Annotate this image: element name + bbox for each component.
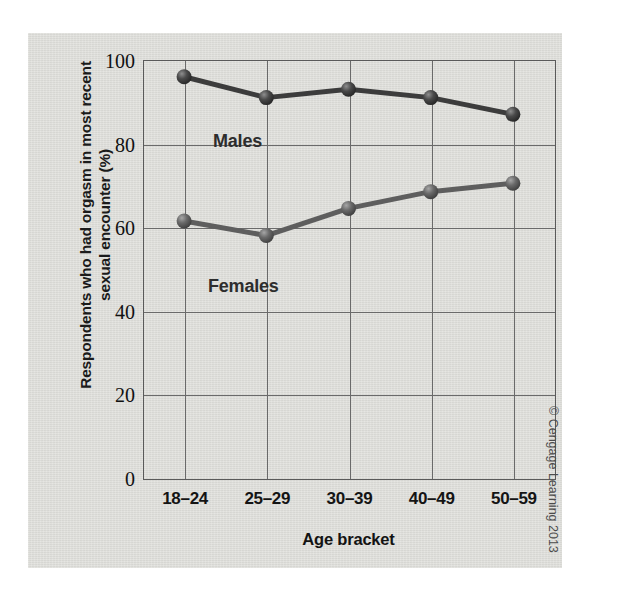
- y-tick-label: 80: [115, 133, 135, 156]
- y-axis-title-line2: sexual encounter (%): [95, 15, 114, 435]
- x-tick-label: 25–29: [244, 489, 290, 509]
- y-tick-label: 40: [115, 300, 135, 323]
- figure-panel: Respondents who had orgasm in most recen…: [28, 33, 562, 568]
- y-tick-label: 0: [125, 468, 135, 491]
- series-label-males: Males: [213, 131, 262, 152]
- copyright-notice: © Cengage Learning 2013: [546, 406, 560, 592]
- y-tick-label: 20: [115, 384, 135, 407]
- series-label-females: Females: [208, 276, 279, 297]
- y-axis-title: Respondents who had orgasm in most recen…: [76, 15, 114, 435]
- y-axis-title-line1: Respondents who had orgasm in most recen…: [77, 61, 94, 389]
- data-point-females-25–29: [259, 228, 274, 243]
- series-plot: [143, 60, 554, 478]
- data-point-males-50–59: [505, 107, 520, 122]
- y-tick-label: 100: [105, 50, 135, 73]
- data-point-males-40–49: [423, 90, 438, 105]
- data-point-females-40–49: [423, 184, 438, 199]
- data-point-males-25–29: [259, 90, 274, 105]
- x-axis-title: Age bracket: [143, 530, 554, 549]
- x-tick-label: 18–24: [162, 489, 208, 509]
- data-point-females-30–39: [341, 201, 356, 216]
- data-point-males-30–39: [341, 82, 356, 97]
- y-tick-label: 60: [115, 217, 135, 240]
- data-point-females-50–59: [505, 176, 520, 191]
- x-tick-label: 30–39: [327, 489, 373, 509]
- x-tick-label: 40–49: [409, 489, 455, 509]
- data-point-females-18–24: [177, 213, 192, 228]
- data-point-males-18–24: [177, 69, 192, 84]
- x-tick-label: 50–59: [491, 489, 537, 509]
